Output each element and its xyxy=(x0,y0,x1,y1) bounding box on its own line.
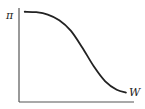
y-axis-label: π xyxy=(5,9,14,22)
chart: π W xyxy=(0,0,145,109)
x-axis-label: W xyxy=(129,86,142,99)
series-line xyxy=(25,12,126,93)
